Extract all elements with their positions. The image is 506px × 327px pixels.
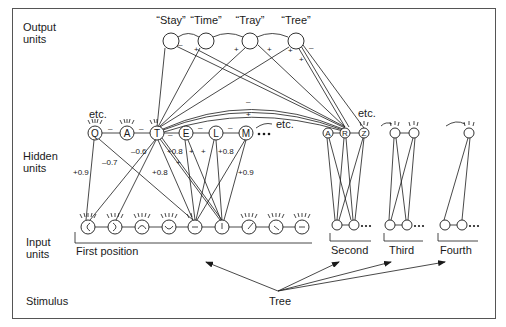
second-etc: etc.	[358, 107, 376, 119]
svg-text:+0.8: +0.8	[167, 147, 183, 156]
svg-text:Q: Q	[91, 128, 99, 139]
second-position-label: Second	[331, 244, 368, 256]
hidden-etc-right: etc.	[276, 118, 294, 130]
third-position-label: Third	[389, 244, 414, 256]
hidden-unit-r-second: R	[340, 128, 350, 138]
svg-text:+: +	[246, 110, 251, 119]
hidden-unit-e: E	[179, 126, 193, 140]
svg-text:M: M	[242, 128, 250, 139]
hidden-unit-l: L	[209, 126, 223, 140]
svg-text:A: A	[325, 129, 331, 138]
svg-text:Z: Z	[362, 129, 367, 138]
svg-text:–: –	[198, 123, 203, 132]
hidden-unit-z-second: Z	[359, 128, 369, 138]
svg-text:–: –	[108, 124, 113, 133]
svg-text:+: +	[201, 147, 206, 156]
diagram-frame	[13, 9, 496, 319]
stimulus-label: Stimulus	[26, 295, 69, 307]
svg-text:+: +	[176, 158, 181, 167]
svg-text:+0.8: +0.8	[152, 168, 168, 177]
svg-text:+: +	[234, 45, 239, 54]
svg-text:L: L	[213, 128, 219, 139]
hidden-unit-m: M	[239, 126, 253, 140]
hidden-etc-left: etc.	[89, 108, 107, 120]
svg-text:–: –	[139, 124, 144, 133]
svg-text:–: –	[178, 40, 183, 49]
input-unit-vertical-bar	[215, 220, 229, 234]
hidden-unit-a-second: A	[323, 128, 333, 138]
svg-text:–0.7: –0.7	[102, 158, 118, 167]
first-position-label: First position	[76, 245, 138, 257]
stimulus-word: Tree	[269, 295, 291, 307]
svg-text:+: +	[194, 45, 199, 54]
interactive-activation-model-diagram: Output units Hidden units Input units St…	[0, 0, 506, 327]
svg-text:“Tree”: “Tree”	[281, 14, 311, 26]
svg-text:T: T	[154, 128, 160, 139]
svg-text:+0.9: +0.9	[73, 168, 89, 177]
svg-text:+: +	[299, 55, 304, 64]
svg-text:R: R	[342, 129, 348, 138]
svg-text:“Time”: “Time”	[190, 14, 222, 26]
svg-text:+: +	[267, 45, 272, 54]
svg-text:–: –	[168, 130, 173, 139]
svg-text:A: A	[124, 128, 131, 139]
svg-text:–: –	[228, 123, 233, 132]
svg-text:+: +	[288, 46, 293, 55]
svg-text:“Tray”: “Tray”	[236, 14, 265, 26]
svg-text:+0.9: +0.9	[238, 168, 254, 177]
hidden-ellipsis	[258, 133, 271, 136]
svg-text:–: –	[309, 43, 314, 52]
svg-text:–0.6: –0.6	[131, 147, 147, 156]
svg-text:E: E	[183, 128, 190, 139]
svg-text:+0.8: +0.8	[218, 147, 234, 156]
fourth-position-label: Fourth	[440, 244, 472, 256]
svg-text:–: –	[246, 97, 251, 106]
svg-text:“Stay”: “Stay”	[156, 14, 186, 26]
svg-text:+: +	[189, 147, 194, 156]
